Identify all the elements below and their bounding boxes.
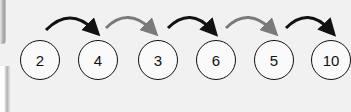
node-label: 10 xyxy=(323,52,340,69)
node-6: 6 xyxy=(196,40,236,80)
arrow-6-to-5 xyxy=(226,17,272,30)
arrow-3-to-6 xyxy=(168,17,212,30)
node-label: 6 xyxy=(212,52,220,69)
node-10: 10 xyxy=(311,40,351,80)
arrow-5-to-10 xyxy=(286,17,330,30)
node-2: 2 xyxy=(20,40,60,80)
node-label: 4 xyxy=(94,52,102,69)
node-4: 4 xyxy=(78,40,118,80)
node-label: 5 xyxy=(270,52,278,69)
node-label: 3 xyxy=(154,52,162,69)
arrow-2-to-4 xyxy=(46,18,94,30)
arrow-4-to-3 xyxy=(106,17,152,30)
node-3: 3 xyxy=(138,40,178,80)
node-5: 5 xyxy=(254,40,294,80)
node-label: 2 xyxy=(36,52,44,69)
